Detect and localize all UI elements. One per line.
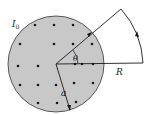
label-current: I0	[11, 19, 20, 30]
diagram-canvas: I0 θ R a	[0, 0, 152, 115]
label-outer-radius: R	[115, 67, 123, 77]
label-inner-radius: a	[61, 88, 66, 98]
label-angle: θ	[73, 54, 78, 63]
